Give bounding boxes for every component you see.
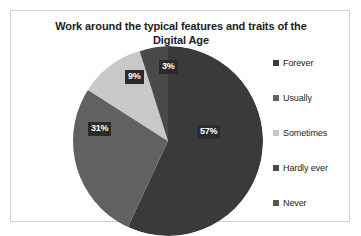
legend-item-never[interactable]: Never [273,197,307,209]
plot-area: 57% 31% 9% 3% [11,47,263,223]
data-label-hardly-ever: 3% [159,60,178,74]
legend-swatch-icon [273,200,279,206]
chart-legend: Forever Usually Sometimes Hardly ever Ne… [273,57,359,217]
pie-svg [73,46,263,236]
legend-item-usually[interactable]: Usually [273,92,312,104]
pie-slices [73,46,263,236]
pie-chart: 57% 31% 9% 3% [73,46,263,236]
legend-label: Forever [283,58,313,69]
chart-title: Work around the typical features and tra… [25,19,337,47]
legend-item-forever[interactable]: Forever [273,57,313,69]
legend-swatch-icon [273,95,279,101]
legend-item-hardly-ever[interactable]: Hardly ever [273,162,328,174]
legend-label: Usually [283,93,312,104]
data-label-sometimes: 9% [125,70,144,84]
chart-frame: Work around the typical features and tra… [10,10,350,222]
legend-label: Sometimes [283,128,327,139]
chart-title-line-2: Digital Age [25,33,337,47]
legend-swatch-icon [273,130,279,136]
legend-label: Never [283,198,307,209]
chart-title-line-1: Work around the typical features and tra… [25,19,337,33]
legend-swatch-icon [273,165,279,171]
legend-label: Hardly ever [283,163,328,174]
legend-swatch-icon [273,60,279,66]
data-label-forever: 57% [197,125,220,139]
legend-item-sometimes[interactable]: Sometimes [273,127,327,139]
data-label-usually: 31% [88,122,111,136]
